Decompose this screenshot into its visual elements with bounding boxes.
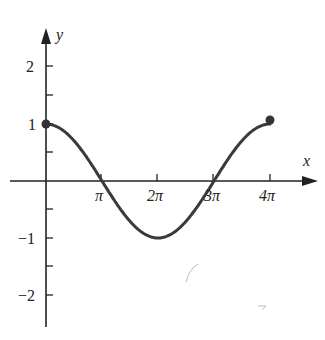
y-axis-arrow-icon xyxy=(41,28,51,44)
y-tick-label-2: 2 xyxy=(26,58,34,75)
x-ticks xyxy=(101,174,270,181)
scan-mark xyxy=(186,264,198,282)
x-axis-label: x xyxy=(302,152,310,169)
x-tick-label-3pi: 3π xyxy=(203,187,221,204)
x-axis-arrow-icon xyxy=(302,176,318,186)
y-tick-label-neg1: −1 xyxy=(18,230,35,247)
scan-mark xyxy=(258,306,266,310)
x-tick-label-4pi: 4π xyxy=(259,187,276,204)
y-tick-label-neg2: −2 xyxy=(18,287,35,304)
y-axis-label: y xyxy=(54,26,64,44)
x-tick-label-pi: π xyxy=(95,187,104,204)
start-point xyxy=(42,120,51,129)
end-point xyxy=(266,116,275,125)
y-tick-label-1: 1 xyxy=(28,116,36,133)
cosine-graph: y x 2 1 −1 −2 π 2π 3π 4π xyxy=(0,0,325,340)
x-tick-label-2pi: 2π xyxy=(147,187,164,204)
